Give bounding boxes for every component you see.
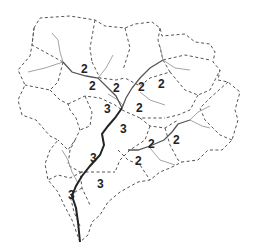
stream-order-label: 3 — [90, 151, 97, 165]
stream-order-label: 2 — [138, 80, 145, 94]
stream-order-labels: 2 2 2 2 2 2 3 3 2 2 3 2 3 3 — [68, 62, 180, 202]
stream-order-label: 3 — [120, 122, 127, 136]
stream-order-label: 2 — [135, 154, 142, 168]
stream-order-label: 2 — [158, 77, 165, 91]
stream-order-label: 3 — [97, 177, 104, 191]
stream-order-label: 3 — [104, 102, 111, 116]
stream-order-label: 2 — [136, 101, 143, 115]
stream-order-label: 2 — [89, 79, 96, 93]
stream-order-label: 3 — [68, 188, 75, 202]
stream-order-label: 2 — [113, 81, 120, 95]
stream-order-label: 2 — [173, 133, 180, 147]
stream-order-label: 2 — [81, 62, 88, 76]
stream-order-label: 2 — [148, 137, 155, 151]
watershed-diagram: 2 2 2 2 2 2 3 3 2 2 3 2 3 3 — [0, 0, 253, 251]
subbasin-boundaries — [18, 16, 240, 242]
